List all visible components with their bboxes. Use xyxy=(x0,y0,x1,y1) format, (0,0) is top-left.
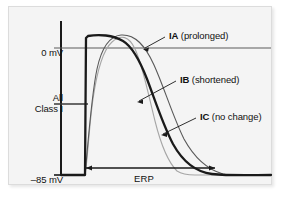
axis-label-all-class-i: All Class I xyxy=(15,93,63,114)
curve-label-ib: IB (shortened) xyxy=(180,74,239,85)
axis-label-all-class-i-line1: All xyxy=(15,93,63,104)
curve-label-ib-code: IB xyxy=(180,74,189,85)
curve-ib-shortened xyxy=(61,37,271,175)
figure-panel: 0 mV All Class I –85 mV IA (prolonged) I… xyxy=(8,6,272,185)
leader-line-ib xyxy=(137,81,176,104)
axis-label-zero-mv: 0 mV xyxy=(19,48,63,59)
curve-label-ic-code: IC xyxy=(200,111,209,122)
curve-label-ic-text: (no change) xyxy=(209,111,261,122)
curve-label-ia: IA (prolonged) xyxy=(169,30,228,41)
curve-label-ia-text: (prolonged) xyxy=(178,30,228,41)
curve-label-ic: IC (no change) xyxy=(200,111,261,122)
axis-label-neg85-mv: –85 mV xyxy=(12,175,63,186)
figure-root: 0 mV All Class I –85 mV IA (prolonged) I… xyxy=(0,0,285,197)
curve-label-ia-code: IA xyxy=(169,30,178,41)
erp-label: ERP xyxy=(134,173,154,184)
curve-label-ib-text: (shortened) xyxy=(189,74,239,85)
axis-label-all-class-i-line2: Class I xyxy=(15,104,63,115)
leader-line-ia xyxy=(143,37,165,52)
